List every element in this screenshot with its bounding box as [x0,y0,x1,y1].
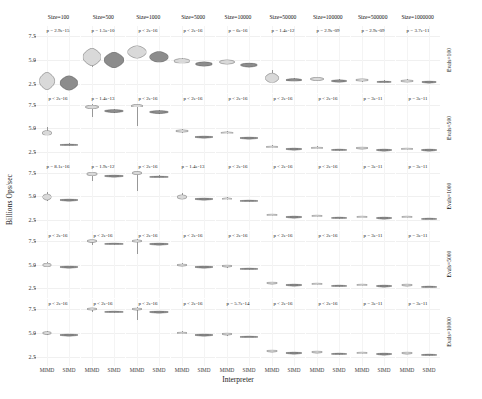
violin-simd [286,78,302,81]
panel-2-1: p = 1.9e-12 [81,162,125,229]
panel-1-0: p < 2e-16 [36,94,80,161]
gridline-h [396,333,440,334]
violin-mimd [311,146,323,149]
gridline-h [306,152,350,153]
row-strip-3: Evals=5000 [442,230,456,298]
panel-row-2: p = 8.1e-16p = 1.9e-12p < 2e-16p = 1.4e-… [36,162,440,229]
column-strip-row: Size=100Size=500Size=1000Size=5000Size=1… [36,12,440,22]
y-tick-label: 7.5 [2,238,36,244]
row-strip-label: Evals=5000 [446,251,452,278]
gridline-h [351,241,395,242]
gridline-h [81,152,125,153]
violin-simd [149,243,168,246]
gridline-h [126,333,170,334]
gridline-v [384,94,385,161]
p-value-annotation: p < 2e-16 [261,233,305,238]
violin-mimd [177,195,187,200]
p-value-annotation: p < 2e-16 [216,233,260,238]
gridline-v [69,162,70,229]
gridline-h [306,241,350,242]
gridline-h [306,265,350,266]
gridline-h [396,196,440,197]
gridline-h [306,60,350,61]
p-value-annotation: p = 5.7e-14 [216,301,260,306]
p-value-annotation: p = 3e-11 [351,164,395,169]
gridline-h [261,36,305,37]
gridline-h [36,152,80,153]
gridline-h [351,265,395,266]
p-value-annotation: p < 2e-16 [126,233,170,238]
violin-simd [240,199,258,202]
violin-mimd [132,308,142,311]
gridline-h [36,357,80,358]
gridline-h [396,241,440,242]
column-strip-label: Size=1000 [136,14,160,20]
violin-mimd [87,308,97,311]
gridline-h [396,60,440,61]
gridline-h [261,265,305,266]
p-value-annotation: p = 3e-11 [351,301,395,306]
violin-mimd [267,214,278,217]
gridline-v [159,231,160,298]
gridline-h [261,128,305,129]
gridline-v [272,162,273,229]
gridline-h [36,309,80,310]
violin-facet-figure: Billions Ops/sec 7.55.02.57.55.02.57.55.… [0,0,482,399]
y-tick-label: 2.5 [2,217,36,223]
gridline-h [81,128,125,129]
gridline-h [306,36,350,37]
violin-simd [149,175,168,178]
gridline-v [362,299,363,366]
p-value-annotation: p < 2e-16 [81,301,125,306]
violin-simd [286,216,302,219]
row-strip-0: Evals=100 [442,26,456,94]
y-tick-label: 2.5 [2,285,36,291]
gridline-h [81,36,125,37]
gridline-h [396,84,440,85]
gridline-h [396,357,440,358]
gridline-v [204,299,205,366]
panel-2-3: p = 1.4e-13 [171,162,215,229]
violin-simd [331,216,347,219]
gridline-h [306,357,350,358]
violin-mimd [266,145,278,148]
violin-simd [377,80,392,83]
gridline-h [36,60,80,61]
violin-mimd [39,72,55,90]
violin-mimd [310,78,324,82]
violin-mimd [42,263,51,267]
p-value-annotation: p < 2e-16 [171,28,215,33]
gridline-h [216,309,260,310]
gridline-h [306,173,350,174]
gridline-h [126,357,170,358]
gridline-h [216,128,260,129]
gridline-h [36,105,80,106]
p-value-annotation: p = 2.9e-09 [351,28,395,33]
p-value-annotation: p < 2e-16 [171,96,215,101]
panel-3-3: p < 2e-16 [171,231,215,298]
gridline-v [114,231,115,298]
p-value-annotation: p < 2e-16 [261,301,305,306]
gridline-v [249,162,250,229]
panel-4-4: p = 5.7e-14 [216,299,260,366]
gridline-v [272,299,273,366]
p-value-annotation: p = 1.4e-13 [81,96,125,101]
gridline-h [396,152,440,153]
violin-mimd [174,58,190,64]
panel-1-6: p < 2e-16 [306,94,350,161]
column-strip-0: Size=100 [36,12,81,22]
gridline-h [351,152,395,153]
gridline-v [182,94,183,161]
panel-0-5: p = 1.4e-12 [261,26,305,93]
gridline-v [384,26,385,93]
violin-simd [195,198,213,201]
violin-simd [104,175,123,178]
gridline-h [216,241,260,242]
gridline-v [249,231,250,298]
gridline-v [317,94,318,161]
p-value-annotation: p < 2e-16 [261,164,305,169]
gridline-h [351,60,395,61]
column-strip-label: Size=5000 [181,14,205,20]
y-tick-label: 7.5 [2,306,36,312]
p-value-annotation: p = 1.4e-13 [171,164,215,169]
